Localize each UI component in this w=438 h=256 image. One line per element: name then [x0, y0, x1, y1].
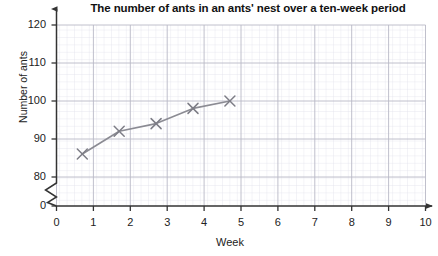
x-tick-label-1: 1 [83, 216, 103, 228]
chart-page: The number of ants in an ants' nest over… [0, 0, 438, 256]
x-axis-label: Week [150, 236, 310, 248]
y-tick-label-80: 80 [12, 170, 46, 182]
x-tick-label-4: 4 [194, 216, 214, 228]
x-tick-label-2: 2 [120, 216, 140, 228]
x-tick-label-3: 3 [157, 216, 177, 228]
y-axis-label: Number of ants [17, 51, 29, 123]
y-axis-break-symbol [46, 177, 57, 206]
x-tick-label-8: 8 [342, 216, 362, 228]
y-tick-label-0: 0 [12, 199, 46, 211]
x-tick-label-10: 10 [416, 216, 436, 228]
x-tick-label-5: 5 [231, 216, 251, 228]
x-tick-label-7: 7 [305, 216, 325, 228]
x-tick-label-6: 6 [268, 216, 288, 228]
x-tick-label-0: 0 [47, 216, 67, 228]
x-tick-label-9: 9 [379, 216, 399, 228]
y-axis-label-wrapper: Number of ants [13, 27, 31, 147]
